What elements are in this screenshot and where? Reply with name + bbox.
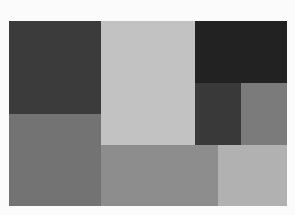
block-mid-right-right: [241, 83, 287, 145]
block-mid-right-left: [195, 83, 241, 145]
block-composition: [0, 0, 295, 215]
block-top-center: [101, 21, 195, 145]
block-top-left: [9, 21, 101, 114]
block-top-right: [195, 21, 287, 83]
block-bottom-right: [218, 145, 287, 206]
block-bottom-left: [9, 114, 101, 206]
block-bottom-center: [101, 145, 218, 206]
